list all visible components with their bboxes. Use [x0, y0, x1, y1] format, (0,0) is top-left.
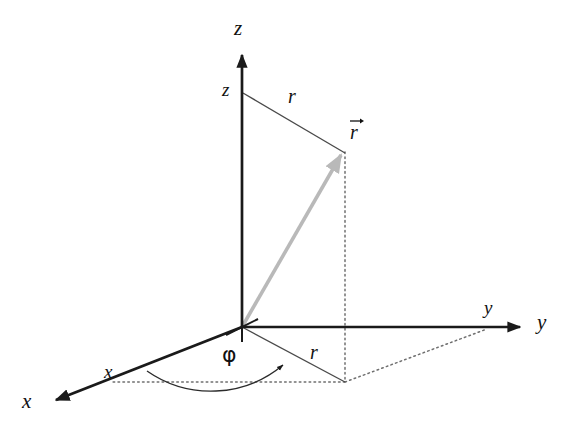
x-axis-label: x: [22, 391, 31, 412]
position-vector-label: r: [350, 122, 358, 142]
diagram-canvas: z y x z y x r r r φ: [0, 0, 572, 434]
azimuthal-angle-label: φ: [222, 344, 237, 366]
vector-arrow-accent-icon: [349, 117, 364, 125]
x-coordinate-label: x: [104, 362, 112, 381]
z-coordinate-label: z: [222, 80, 229, 99]
x-axis-line: [56, 327, 242, 400]
y-coordinate-label: y: [484, 298, 492, 317]
dotted-projection-to-y-axis: [345, 329, 487, 382]
position-vector-arrow: [242, 155, 341, 327]
radial-distance-upper-label: r: [288, 86, 296, 106]
coordinate-system-figure: [0, 0, 572, 434]
azimuthal-angle-arc: [147, 365, 283, 391]
y-axis-label: y: [537, 312, 546, 333]
z-axis-label: z: [234, 18, 242, 39]
radial-projection-line: [242, 327, 345, 382]
radial-distance-lower-label: r: [310, 342, 318, 362]
